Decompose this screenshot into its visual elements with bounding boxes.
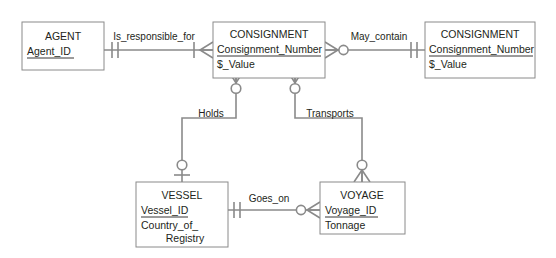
entity-voyage-attribute-voyage-id: Voyage_ID — [325, 204, 377, 216]
entity-vessel[interactable]: VESSEL Vessel_ID Country_of_ Registry — [136, 182, 228, 247]
relationship-line-is-responsible-for — [104, 42, 213, 58]
entity-vessel-attribute-vessel-id: Vessel_ID — [141, 204, 189, 216]
er-diagram: Is_responsible_for May_contain Holds Tra… — [0, 0, 556, 258]
entity-voyage-attribute-tonnage: Tonnage — [325, 219, 365, 231]
relationship-label-transports: Transports — [306, 108, 353, 119]
relationship-label-holds: Holds — [198, 108, 224, 119]
relationship-label-goes-on: Goes_on — [249, 193, 290, 204]
relationship-line-goes-on — [228, 202, 320, 218]
entity-voyage[interactable]: VOYAGE Voyage_ID Tonnage — [320, 182, 405, 234]
entity-agent-title: AGENT — [45, 30, 82, 42]
entity-voyage-title: VOYAGE — [340, 189, 384, 201]
entity-vessel-attribute-registry: Registry — [166, 232, 205, 244]
entity-vessel-title: VESSEL — [162, 189, 203, 201]
entity-consignment-right[interactable]: CONSIGNMENT Consignment_Number $_Value — [425, 22, 535, 78]
entity-vessel-attribute-country-of: Country_of_ — [141, 219, 198, 231]
relationship-line-holds — [174, 70, 244, 182]
entity-consignment-main[interactable]: CONSIGNMENT Consignment_Number $_Value — [213, 22, 325, 78]
er-diagram-canvas: Is_responsible_for May_contain Holds Tra… — [0, 0, 556, 258]
entity-agent-attribute-agent-id: Agent_ID — [27, 45, 71, 57]
relationship-label-is-responsible-for: Is_responsible_for — [113, 31, 195, 42]
entity-consignment-right-attribute-value: $_Value — [429, 58, 467, 70]
entity-consignment-main-title: CONSIGNMENT — [230, 28, 309, 40]
relationship-line-transports — [287, 70, 370, 182]
entity-consignment-right-attribute-consignment-number: Consignment_Number — [429, 43, 535, 55]
relationship-label-may-contain: May_contain — [351, 31, 408, 42]
relationship-line-may-contain — [325, 42, 425, 58]
entity-consignment-main-attribute-value: $_Value — [217, 58, 255, 70]
entity-consignment-right-title: CONSIGNMENT — [441, 28, 520, 40]
entity-agent[interactable]: AGENT Agent_ID — [22, 22, 104, 70]
entity-consignment-main-attribute-consignment-number: Consignment_Number — [217, 43, 323, 55]
